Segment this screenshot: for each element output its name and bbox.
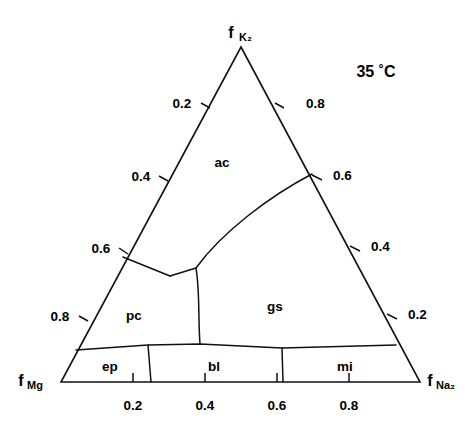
apex-label-main: f [228,24,234,41]
tick-left-0-4 [159,176,168,181]
tick-right-0-6 [312,175,322,180]
region-label-mi: mi [337,359,353,374]
right-label-main: f [427,372,433,389]
tick-labels-left: 0.2 0.4 0.6 0.8 [51,96,192,324]
boundary-ac-pc-junction [170,268,196,276]
corner-label-apex: f K₂ [228,24,252,43]
left-label-main: f [18,372,24,389]
apex-label-subscript: K₂ [239,31,252,43]
region-label-pc: pc [126,308,142,323]
left-edge-ticks [79,103,210,321]
corner-label-left: f Mg [18,372,43,391]
boundary-pc-gs [196,268,200,344]
bottom-edge-ticks [133,373,349,382]
tick-left-0-2 [201,103,210,108]
tick-label-bottom-0-4: 0.4 [196,398,215,413]
region-label-ep: ep [102,359,118,374]
tick-label-right-0-8: 0.8 [306,96,325,111]
tick-left-0-8 [79,316,88,321]
tick-label-left-0-2: 0.2 [173,96,192,111]
tick-labels-right: 0.8 0.6 0.4 0.2 [306,96,427,322]
boundary-ac-gs [196,174,312,268]
tick-label-left-0-8: 0.8 [51,309,70,324]
region-label-bl: bl [208,359,220,374]
region-label-gs: gs [267,299,283,314]
tick-label-left-0-4: 0.4 [132,169,151,184]
boundary-bl-mi [282,348,283,382]
tick-labels-bottom: 0.2 0.4 0.6 0.8 [124,398,359,413]
boundary-lower-band-top [76,344,396,350]
boundary-pc-ac [123,257,170,276]
tick-right-0-8 [275,103,284,108]
right-label-subscript: Na₂ [436,379,455,391]
tick-label-right-0-4: 0.4 [371,239,390,254]
phase-diagram-canvas: 0.2 0.4 0.6 0.8 0.8 0.6 0.4 0.2 0.2 0.4 … [0,0,476,431]
tick-label-bottom-0-8: 0.8 [340,398,359,413]
tick-label-right-0-6: 0.6 [333,168,352,183]
left-label-subscript: Mg [27,379,43,391]
temperature-annotation: 35 ˚C [356,63,396,80]
ternary-phase-diagram-figure: 0.2 0.4 0.6 0.8 0.8 0.6 0.4 0.2 0.2 0.4 … [0,0,476,431]
tick-label-left-0-6: 0.6 [92,241,111,256]
tick-label-bottom-0-6: 0.6 [268,398,287,413]
boundary-ep-bl [148,345,151,382]
right-edge-ticks [275,103,397,319]
tick-right-0-2 [387,314,397,319]
tick-label-right-0-2: 0.2 [408,307,427,322]
tick-label-bottom-0-2: 0.2 [124,398,143,413]
region-label-ac: ac [214,155,230,170]
triangle-outline [61,47,420,382]
tick-left-0-6 [119,248,128,254]
tick-right-0-4 [350,246,360,251]
corner-label-right: f Na₂ [427,372,455,391]
